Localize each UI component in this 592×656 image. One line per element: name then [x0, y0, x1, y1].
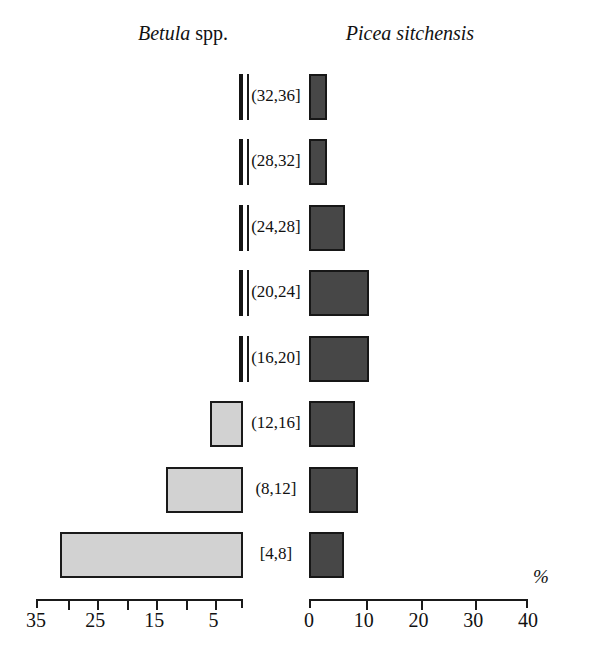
left-panel-title-genus: Betula — [138, 22, 190, 44]
category-tick — [247, 270, 249, 316]
axis-tick — [127, 601, 129, 610]
category-label: (16,20] — [243, 348, 309, 368]
category-tick — [247, 74, 249, 120]
axis-tick-label: 20 — [397, 609, 441, 632]
category-label: (24,28] — [243, 217, 309, 237]
axis-tick-label: 30 — [451, 609, 495, 632]
category-label: (20,24] — [243, 282, 309, 302]
axis-tick-label: 25 — [73, 609, 117, 632]
percent-unit-label: % — [533, 566, 549, 588]
bar-picea-(12,16] — [309, 401, 355, 447]
bar-picea-(20,24] — [309, 270, 369, 316]
category-label: (8,12] — [243, 479, 309, 499]
axis-tick-label: 15 — [132, 609, 176, 632]
category-tick — [247, 139, 249, 185]
right-plot-area — [309, 64, 528, 588]
category-tick — [247, 336, 249, 382]
left-panel-title-suffix: spp. — [190, 22, 228, 44]
bar-picea-(16,20] — [309, 336, 369, 382]
axis-tick-label: 10 — [342, 609, 386, 632]
category-label: [4,8] — [243, 544, 309, 564]
axis-tick-label: 35 — [14, 609, 58, 632]
bar-betula-[4,8] — [60, 532, 243, 578]
category-tick — [247, 205, 249, 251]
right-x-axis — [309, 599, 528, 608]
histogram-figure: Betula spp. Picea sitchensis (32,36](28,… — [0, 0, 592, 656]
left-panel-title: Betula spp. — [88, 22, 278, 45]
bar-picea-(28,32] — [309, 139, 327, 185]
category-label: (12,16] — [243, 413, 309, 433]
bar-picea-(24,28] — [309, 205, 345, 251]
right-panel-title: Picea sitchensis — [300, 22, 520, 45]
category-label: (28,32] — [243, 151, 309, 171]
bar-picea-[4,8] — [309, 532, 344, 578]
bar-picea-(8,12] — [309, 467, 358, 513]
left-x-axis — [36, 599, 243, 608]
axis-tick-label: 5 — [191, 609, 235, 632]
bar-betula-(8,12] — [166, 467, 243, 513]
axis-tick-label: 40 — [506, 609, 550, 632]
axis-tick — [186, 601, 188, 610]
axis-tick — [68, 601, 70, 610]
axis-tick-label: 0 — [287, 609, 331, 632]
category-label: (32,36] — [243, 86, 309, 106]
left-plot-area — [36, 64, 243, 588]
bar-picea-(32,36] — [309, 74, 327, 120]
bar-betula-(12,16] — [210, 401, 243, 447]
category-label-column: (32,36](28,32](24,28](20,24](16,20](12,1… — [243, 64, 309, 588]
